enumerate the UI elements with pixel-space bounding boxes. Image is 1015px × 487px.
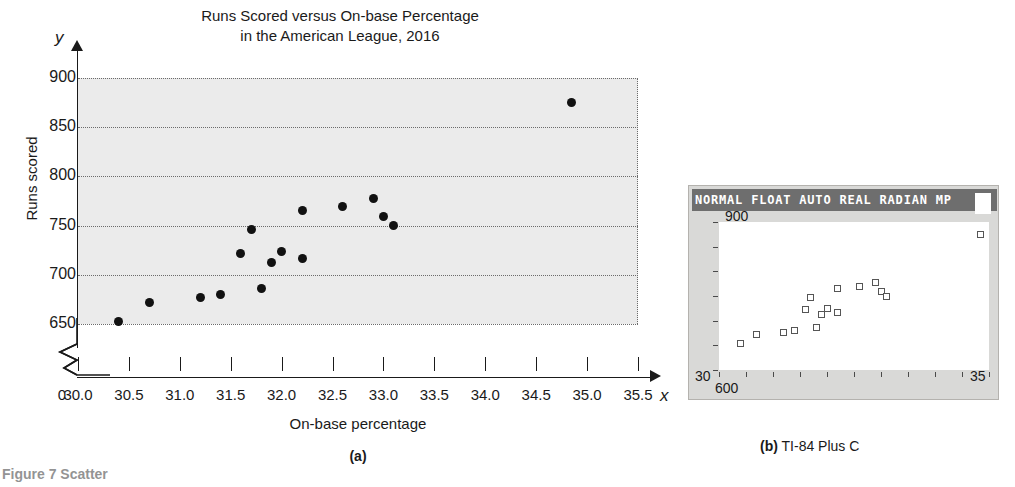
data-point [389,221,398,230]
x-tick-35.0 [587,357,588,371]
x-axis-arrowhead [650,370,661,382]
calculator-data-point [856,283,863,290]
y-tick-label-750: 750 [30,216,76,234]
chart-title-line-2: in the American League, 2016 [120,26,560,46]
x-tick-32.5 [333,357,334,371]
calculator-x-tick [800,372,801,377]
calculator-x-tick [854,372,855,377]
calculator-y-tick [713,296,718,297]
calculator-data-point [813,324,820,331]
caption-b-text: TI-84 Plus C [782,438,860,454]
x-tick-32.0 [282,357,283,371]
x-tick-33.5 [434,357,435,371]
calculator-x-tick [908,372,909,377]
calculator-data-point [791,327,798,334]
gridline-y-850 [78,127,638,128]
calculator-data-point [802,306,809,313]
x-tick-31.0 [180,357,181,371]
caption-a: (a) [78,448,638,464]
data-point [257,284,266,293]
y-tick-label-800: 800 [30,166,76,184]
calculator-x-tick [746,372,747,377]
caption-b-marker: (b) [760,438,778,454]
calculator-data-point [753,331,760,338]
calculator-status-text: NORMAL FLOAT AUTO REAL RADIAN MP [695,193,952,207]
x-tick-35.5 [638,357,639,371]
panel-b-ti84-calculator: NORMAL FLOAT AUTO REAL RADIAN MP 900 30 … [688,185,999,400]
data-point [114,317,123,326]
x-axis-origin-label: 0 [32,386,92,403]
calculator-ymin-label: 600 [715,380,738,396]
calculator-data-point [834,309,841,316]
x-tick-34.0 [485,357,486,371]
calculator-data-point [737,340,744,347]
data-point [236,249,245,258]
calculator-x-tick [962,372,963,377]
calculator-data-point [872,279,879,286]
calculator-data-point [883,293,890,300]
x-tick-label-35.5: 35.5 [608,386,668,403]
calculator-xmax-label: 35 [970,368,986,384]
data-point [298,206,307,215]
x-axis-line [77,377,652,378]
calculator-x-tick [719,372,720,377]
calculator-data-point [780,329,787,336]
gridline-y-700 [78,275,638,276]
data-point [267,258,276,267]
y-tick-label-850: 850 [30,117,76,135]
calculator-graph-screen [719,222,989,370]
x-tick-34.5 [536,357,537,371]
x-axis-title: On-base percentage [78,415,638,432]
figure-scatterplot-runs-vs-obp: Runs Scored versus On-base Percentage in… [0,0,1015,487]
calculator-data-point [824,305,831,312]
x-tick-30.5 [129,357,130,371]
data-point [369,194,378,203]
figure-number-label: Figure 7 Scatter [2,466,108,482]
data-point [567,98,576,107]
calculator-y-tick [713,321,718,322]
calculator-data-point [977,231,984,238]
gridline-y-650 [78,324,638,325]
data-point [196,293,205,302]
data-point [379,212,388,221]
plot-right-border [637,78,638,324]
chart-title-line-1: Runs Scored versus On-base Percentage [120,6,560,26]
x-tick-31.5 [231,357,232,371]
gridline-y-750 [78,226,638,227]
calculator-x-tick [935,372,936,377]
battery-icon [975,193,991,214]
plot-area [78,78,638,324]
data-point [216,290,225,299]
x-tick-33.0 [383,357,384,371]
calculator-x-tick [827,372,828,377]
calculator-y-tick [713,370,718,371]
y-tick-label-700: 700 [30,265,76,283]
data-point [338,202,347,211]
caption-b: (b) TI-84 Plus C [688,438,999,454]
data-point [277,247,286,256]
panel-a-handdrawn-scatterplot: Runs Scored versus On-base Percentage in… [0,0,680,487]
calculator-x-tick [773,372,774,377]
chart-title: Runs Scored versus On-base Percentage in… [120,6,560,46]
axis-break-symbol [40,318,110,380]
calculator-xmin-label: 30 [695,368,711,384]
gridline-y-900 [78,78,638,79]
data-point [145,298,154,307]
calculator-x-tick [989,372,990,377]
calculator-x-tick [881,372,882,377]
data-point [247,225,256,234]
calculator-y-tick [713,222,718,223]
calculator-y-tick [713,247,718,248]
data-point [298,254,307,263]
calculator-y-tick [713,345,718,346]
calculator-y-tick [713,271,718,272]
calculator-data-point [807,294,814,301]
calculator-data-point [834,285,841,292]
y-tick-label-900: 900 [30,68,76,86]
gridline-y-800 [78,176,638,177]
